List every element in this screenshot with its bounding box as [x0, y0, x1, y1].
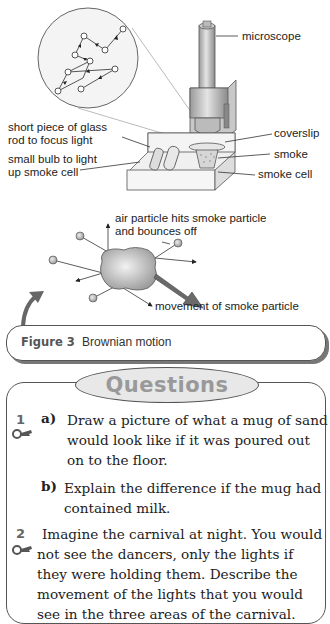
question-2-number: 2: [16, 526, 25, 541]
figure-caption: Figure 3 Brownian motion: [6, 325, 326, 361]
label-bulb-2: up smoke cell: [8, 166, 78, 179]
label-air-particle-1: air particle hits smoke particle: [115, 212, 266, 225]
key-icon: [12, 428, 34, 440]
label-coverslip: coverslip: [274, 127, 319, 140]
label-bulb-1: small bulb to light: [8, 153, 97, 166]
questions-heading-text: Questions: [105, 373, 228, 397]
figure-title: Brownian motion: [82, 335, 171, 349]
question-2-line-3: movement of the lights that you would: [37, 584, 303, 604]
question-1a-text: Draw a picture of what a mug of sand wou…: [67, 410, 328, 470]
figure-number: Figure 3: [21, 335, 75, 349]
label-glass-rod-2: rod to focus light: [8, 134, 92, 147]
label-smoke: smoke: [274, 148, 308, 161]
questions-heading: Questions: [75, 367, 259, 403]
question-2-line-1: not see the dancers, only the lights if: [37, 544, 293, 564]
label-smoke-cell: smoke cell: [258, 168, 312, 181]
label-microscope: microscope: [242, 30, 301, 43]
question-1b-text: Explain the difference if the mug had co…: [64, 478, 321, 518]
label-air-particle-2: and bounces off: [115, 225, 197, 238]
key-icon: [12, 544, 34, 556]
question-2-line-4: see in the three areas of the carnival.: [37, 604, 295, 624]
question-1b-label: b): [41, 478, 57, 494]
label-movement: movement of smoke particle: [155, 300, 299, 313]
question-1a-label: a): [41, 410, 56, 426]
question-2-line-0: Imagine the carnival at night. You would: [42, 524, 322, 544]
question-2-line-2: they were holding them. Describe the: [37, 564, 297, 584]
label-glass-rod-1: short piece of glass: [8, 121, 107, 134]
question-1-number: 1: [16, 412, 25, 427]
